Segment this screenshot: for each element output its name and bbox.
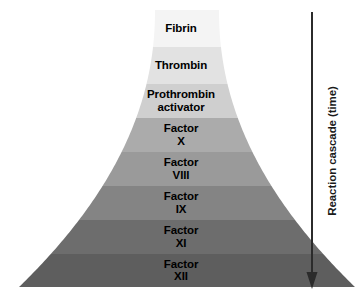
- axis-label-text: Reaction cascade (time): [326, 86, 338, 215]
- reaction-cascade-axis-label: Reaction cascade (time): [318, 0, 346, 302]
- cascade-diagram: FibrinThrombinProthrombin activatorFacto…: [0, 0, 362, 302]
- cascade-band: [153, 10, 221, 47]
- cascade-band: [103, 152, 272, 186]
- cascade-band: [79, 186, 295, 220]
- cascade-band: [51, 220, 323, 254]
- cascade-band: [122, 118, 253, 152]
- cascade-band: [146, 47, 227, 84]
- cascade-band: [136, 84, 238, 118]
